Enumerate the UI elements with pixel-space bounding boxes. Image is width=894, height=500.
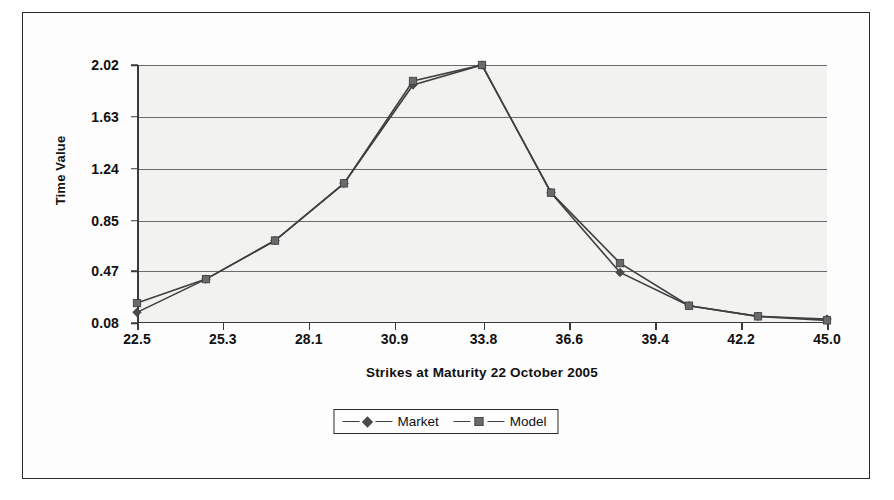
data-point-square bbox=[271, 237, 278, 244]
x-tick-label: 33.8 bbox=[454, 331, 514, 347]
x-tick-label: 42.2 bbox=[711, 331, 771, 347]
x-tick-mark bbox=[655, 322, 657, 330]
legend-line-segment bbox=[342, 421, 359, 423]
y-axis-tick-labels: 0.080.470.851.241.632.02 bbox=[57, 13, 119, 480]
y-tick-label: 1.24 bbox=[59, 161, 119, 177]
x-tick-mark bbox=[223, 322, 225, 330]
legend-label-model: Model bbox=[509, 414, 548, 429]
data-point-square bbox=[547, 189, 554, 196]
x-tick-label: 22.5 bbox=[107, 331, 167, 347]
data-point-square bbox=[685, 302, 692, 309]
diamond-marker-icon bbox=[362, 416, 373, 427]
x-tick-label: 39.4 bbox=[625, 331, 685, 347]
y-tick-label: 0.08 bbox=[59, 315, 119, 331]
data-point-square bbox=[754, 313, 761, 320]
square-marker-icon bbox=[475, 417, 484, 426]
chart-legend: Market Model bbox=[333, 409, 558, 434]
data-point-square bbox=[340, 180, 347, 187]
chart-figure: Time Value 0.080.470.851.241.632.02 22.5… bbox=[22, 12, 870, 479]
legend-line-segment bbox=[488, 421, 505, 423]
data-series-lines bbox=[137, 65, 827, 323]
legend-line-segment bbox=[375, 421, 392, 423]
x-tick-label: 36.6 bbox=[539, 331, 599, 347]
y-tick-label: 0.47 bbox=[59, 263, 119, 279]
x-axis-title: Strikes at Maturity 22 October 2005 bbox=[137, 365, 827, 380]
y-tick-label: 1.63 bbox=[59, 109, 119, 125]
x-tick-label: 25.3 bbox=[193, 331, 253, 347]
legend-item-model[interactable]: Model bbox=[454, 414, 548, 429]
x-axis-tick-labels: 22.525.328.130.933.836.639.442.245.0 bbox=[137, 331, 827, 357]
x-tick-label: 28.1 bbox=[279, 331, 339, 347]
data-point-square bbox=[133, 299, 140, 306]
x-tick-label: 45.0 bbox=[797, 331, 857, 347]
data-point-square bbox=[478, 61, 485, 68]
data-point-square bbox=[202, 275, 209, 282]
data-point-square bbox=[616, 259, 623, 266]
legend-label-market: Market bbox=[396, 414, 439, 429]
x-tick-mark bbox=[395, 322, 397, 330]
legend-item-market[interactable]: Market bbox=[342, 414, 439, 429]
y-tick-label: 2.02 bbox=[59, 57, 119, 73]
x-tick-mark bbox=[484, 322, 486, 330]
x-tick-mark bbox=[309, 322, 311, 330]
x-tick-mark bbox=[569, 322, 571, 330]
data-point-square bbox=[409, 77, 416, 84]
data-point-diamond bbox=[133, 308, 141, 316]
x-tick-mark bbox=[137, 322, 139, 330]
series-line-market bbox=[137, 65, 827, 319]
data-point-square bbox=[823, 317, 830, 324]
y-tick-label: 0.85 bbox=[59, 213, 119, 229]
x-tick-mark bbox=[741, 322, 743, 330]
plot-area bbox=[137, 65, 827, 323]
x-tick-label: 30.9 bbox=[365, 331, 425, 347]
series-line-model bbox=[137, 65, 827, 320]
legend-line-segment bbox=[454, 421, 471, 423]
